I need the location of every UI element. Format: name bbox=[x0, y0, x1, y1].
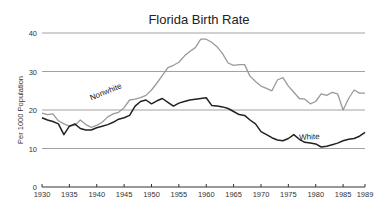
x-axis-ticks: 1930193519401945195019551960196519701975… bbox=[34, 184, 374, 199]
x-tick-label: 1955 bbox=[171, 190, 188, 199]
series-line-nonwhite bbox=[42, 39, 365, 127]
x-tick-label: 1930 bbox=[34, 190, 51, 199]
x-tick-label: 1935 bbox=[61, 190, 78, 199]
y-tick-label: 40 bbox=[29, 29, 37, 38]
line-chart: Florida Birth Rate 010203040 19301935194… bbox=[0, 0, 386, 222]
x-tick-label: 1985 bbox=[335, 190, 352, 199]
y-axis-ticks: 010203040 bbox=[29, 29, 37, 192]
x-tick-label: 1980 bbox=[307, 190, 324, 199]
series-labels: NonwhiteWhite bbox=[89, 81, 321, 142]
series-label-nonwhite: Nonwhite bbox=[89, 81, 124, 102]
gridlines bbox=[42, 33, 365, 187]
x-tick-label: 1975 bbox=[280, 190, 297, 199]
y-tick-label: 30 bbox=[29, 68, 37, 77]
y-axis-label: Per 1000 Population bbox=[16, 76, 25, 144]
x-tick-label: 1940 bbox=[88, 190, 105, 199]
x-tick-label: 1960 bbox=[198, 190, 215, 199]
chart-title: Florida Birth Rate bbox=[148, 12, 249, 27]
y-tick-label: 10 bbox=[29, 145, 37, 154]
x-tick-label: 1945 bbox=[116, 190, 133, 199]
series-label-white: White bbox=[299, 132, 320, 142]
x-tick-label: 1965 bbox=[225, 190, 242, 199]
y-tick-label: 20 bbox=[29, 106, 37, 115]
x-tick-label: 1950 bbox=[143, 190, 160, 199]
x-tick-label: 1989 bbox=[357, 190, 374, 199]
x-tick-label: 1970 bbox=[253, 190, 270, 199]
